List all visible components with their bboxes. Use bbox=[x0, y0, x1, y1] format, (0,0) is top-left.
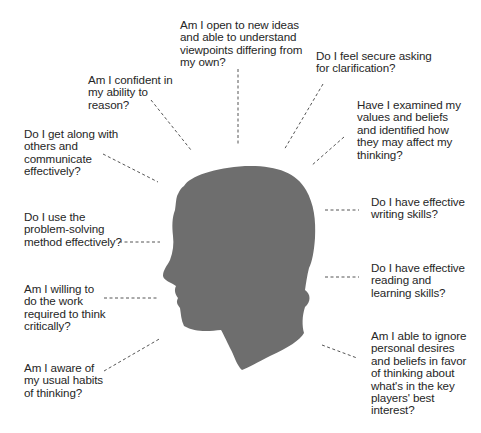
question-writing-skills: Do I have effective writing skills? bbox=[371, 196, 465, 221]
connector-ignore-desires bbox=[322, 345, 357, 358]
head-silhouette-icon bbox=[163, 166, 315, 370]
connector-secure-clarification bbox=[284, 84, 323, 150]
question-aware-habits: Am I aware of my usual habits of thinkin… bbox=[24, 362, 103, 399]
connector-examined-values bbox=[311, 137, 344, 166]
question-confident-reason: Am I confident in my ability to reason? bbox=[88, 74, 173, 111]
question-ignore-desires: Am I able to ignore personal desires and… bbox=[371, 330, 466, 417]
question-problem-solving: Do I use the problem-solving method effe… bbox=[24, 211, 122, 248]
question-reading-skills: Do I have effective reading and learning… bbox=[371, 262, 465, 299]
question-examined-values: Have I examined my values and beliefs an… bbox=[357, 99, 461, 161]
question-open-ideas: Am I open to new ideas and able to under… bbox=[180, 19, 302, 69]
question-get-along: Do I get along with others and communica… bbox=[24, 128, 118, 178]
question-willing-work: Am I willing to do the work required to … bbox=[24, 283, 105, 333]
connector-aware-habits bbox=[104, 338, 161, 371]
question-secure-clarification: Do I feel secure asking for clarificatio… bbox=[316, 50, 432, 75]
